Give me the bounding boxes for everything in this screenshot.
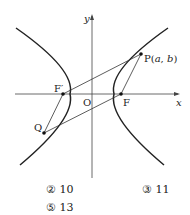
- x-axis-label: x: [176, 97, 182, 108]
- point-Q: [42, 131, 46, 135]
- P-label: P(a, b): [144, 53, 177, 64]
- F-prime-label: F′: [54, 83, 64, 94]
- hyperbola-right-branch: [113, 28, 168, 165]
- x-axis-arrow-icon: [174, 92, 180, 96]
- segment-Fprime-P: [63, 54, 141, 94]
- choice-3: ③ 11: [142, 183, 170, 196]
- F-label: F: [123, 97, 130, 108]
- point-F: [119, 92, 123, 96]
- choice-5: ⑤ 13: [46, 201, 74, 214]
- choice-2: ② 10: [46, 183, 74, 196]
- Q-label: Q: [34, 122, 42, 133]
- hyperbola-left-branch: [16, 28, 71, 165]
- y-axis-arrow-icon: [90, 14, 94, 20]
- point-P: [139, 52, 143, 56]
- y-axis-label: y: [83, 13, 90, 24]
- segment-Fprime-Q: [44, 94, 63, 133]
- segment-F-P: [121, 54, 141, 94]
- origin-label: O: [83, 97, 91, 108]
